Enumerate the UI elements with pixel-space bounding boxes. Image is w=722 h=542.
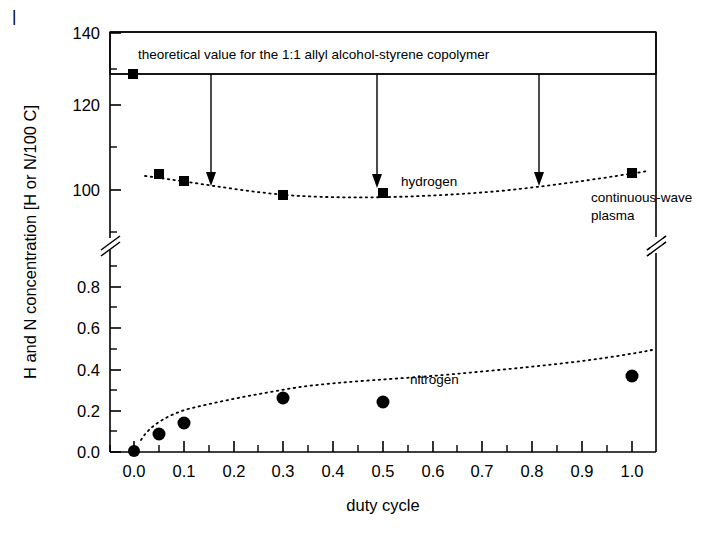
y-tick-label-0-2: 0.2: [77, 402, 100, 420]
y-tick-label-0-0: 0.0: [77, 443, 100, 461]
theoretical-value-annotation-box: theoretical value for the 1:1 allyl alco…: [110, 32, 656, 74]
x-tick-label-9: 0.9: [571, 462, 594, 480]
nitrogen-trend-curve: [141, 350, 652, 440]
y-tick-label-120: 120: [72, 96, 100, 114]
concentration-vs-duty-cycle-chart: 140 120 100 0.8 0.6 0.4 0.2 0.0: [0, 0, 722, 542]
y-axis-title: H and N concentration [H or N/100 C]: [21, 105, 39, 379]
hydrogen-point-4: [627, 168, 637, 178]
annotation-arrow-1: [206, 74, 216, 186]
hydrogen-series-label: hydrogen: [401, 174, 457, 189]
nitrogen-point-2: [178, 417, 191, 430]
nitrogen-point-3: [277, 392, 290, 405]
x-tick-label-8: 0.8: [521, 462, 544, 480]
nitrogen-point-0: [128, 445, 140, 457]
y-axis-lower-minor-ticks: [110, 266, 117, 431]
x-tick-label-7: 0.7: [471, 462, 494, 480]
hydrogen-point-0: [154, 169, 164, 179]
continuous-wave-plasma-label-line2: plasma: [591, 208, 635, 223]
hydrogen-point-1: [179, 176, 189, 186]
y-axis-upper-major-ticks: [110, 33, 121, 190]
x-tick-label-4: 0.4: [322, 462, 345, 480]
corner-tick-mark: |: [12, 7, 16, 26]
y-tick-label-0-8: 0.8: [77, 278, 100, 296]
y-axis-break-right: [647, 236, 666, 256]
y-axis-lower-major-ticks: [110, 287, 121, 452]
theoretical-reference-line: [110, 69, 656, 79]
nitrogen-point-5: [626, 370, 639, 383]
y-tick-label-0-6: 0.6: [77, 319, 100, 337]
nitrogen-point-4: [377, 396, 390, 409]
x-tick-label-0: 0.0: [123, 462, 146, 480]
nitrogen-point-1: [153, 428, 166, 441]
y-axis-upper-minor-ticks: [110, 69, 117, 232]
continuous-wave-plasma-label-line1: continuous-wave: [591, 190, 692, 205]
nitrogen-series-label: nitrogen: [410, 372, 459, 387]
annotation-arrow-2: [372, 74, 382, 188]
hydrogen-point-3: [378, 188, 388, 198]
y-tick-label-0-4: 0.4: [77, 361, 100, 379]
y-tick-label-100: 100: [72, 181, 100, 199]
hydrogen-trend-curve: [145, 171, 648, 197]
plot-frame: [110, 32, 656, 452]
figure-page: 140 120 100 0.8 0.6 0.4 0.2 0.0: [0, 0, 722, 542]
hydrogen-point-2: [278, 190, 288, 200]
x-tick-label-1: 0.1: [173, 462, 196, 480]
x-tick-label-10: 1.0: [621, 462, 644, 480]
y-tick-label-140: 140: [72, 24, 100, 42]
theoretical-value-annotation-text: theoretical value for the 1:1 allyl alco…: [138, 47, 490, 62]
x-tick-label-2: 0.2: [223, 462, 246, 480]
x-tick-label-6: 0.6: [422, 462, 445, 480]
annotation-arrows: [206, 74, 544, 188]
x-tick-label-3: 0.3: [272, 462, 295, 480]
x-axis-title: duty cycle: [346, 496, 419, 514]
annotation-arrow-3: [534, 74, 544, 186]
x-tick-label-5: 0.5: [372, 462, 395, 480]
reference-line-marker: [128, 69, 138, 79]
